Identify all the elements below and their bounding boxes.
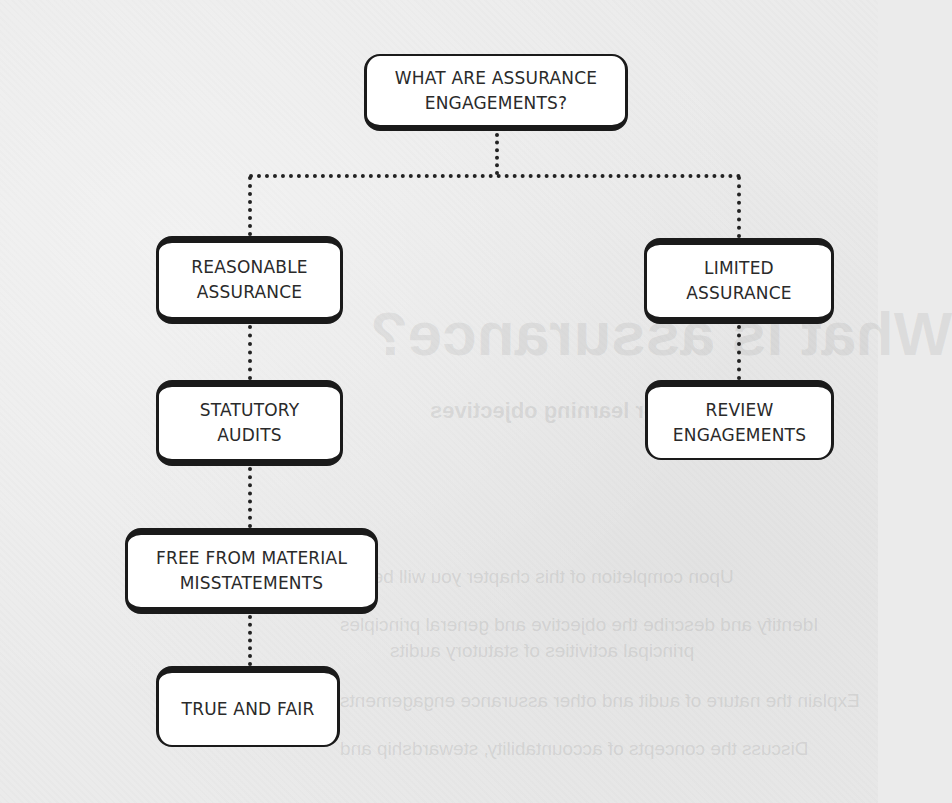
node-statutory-audits: STATUTORY AUDITS	[156, 380, 343, 466]
node-review-engagements-label: REVIEW ENGAGEMENTS	[673, 398, 806, 448]
node-limited-assurance: LIMITED ASSURANCE	[644, 238, 834, 324]
node-root: WHAT ARE ASSURANCE ENGAGEMENTS?	[364, 54, 628, 131]
show-through-line: Identify and describe the objective and …	[340, 614, 818, 636]
connector-limited-to-review	[737, 325, 741, 380]
show-through-line: Discuss the concepts of accountability, …	[340, 738, 809, 760]
show-through-line: Explain the nature of audit and other as…	[340, 690, 860, 712]
connector-root-down	[495, 133, 499, 175]
connector-horizontal-branch	[249, 174, 741, 178]
connector-free-from-to-true-fair	[248, 615, 252, 666]
connector-reasonable-to-statutory	[248, 325, 252, 380]
node-reasonable-assurance-label: REASONABLE ASSURANCE	[191, 255, 308, 305]
show-through-line: principal activities of statutory audits	[390, 640, 694, 662]
connector-statutory-to-free-from	[248, 467, 252, 528]
node-root-label: WHAT ARE ASSURANCE ENGAGEMENTS?	[395, 66, 598, 116]
node-statutory-audits-label: STATUTORY AUDITS	[200, 398, 300, 448]
node-free-from-label: FREE FROM MATERIAL MISSTATEMENTS	[156, 546, 347, 596]
connector-to-limited	[737, 176, 741, 238]
node-free-from-material-misstatements: FREE FROM MATERIAL MISSTATEMENTS	[125, 528, 378, 614]
connector-to-reasonable	[248, 176, 252, 236]
node-review-engagements: REVIEW ENGAGEMENTS	[645, 380, 834, 460]
node-limited-assurance-label: LIMITED ASSURANCE	[686, 256, 792, 306]
node-true-and-fair: TRUE AND FAIR	[156, 666, 340, 747]
node-reasonable-assurance: REASONABLE ASSURANCE	[156, 236, 343, 324]
node-true-and-fair-label: TRUE AND FAIR	[182, 697, 315, 722]
